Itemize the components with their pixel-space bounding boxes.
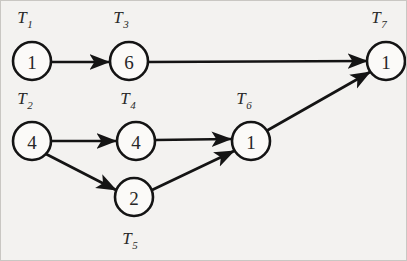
node-t5[interactable]: 2T5 [115,178,153,251]
node-t1[interactable]: 1T1 [13,8,51,80]
node-t4[interactable]: 4T4 [117,89,155,160]
edge-t2-to-t5 [46,154,116,190]
nodes-layer: 1T14T26T34T42T51T61T7 [13,8,405,251]
edge-t4-to-t6 [155,139,231,140]
node-label-sub-t7: 7 [381,18,387,30]
node-label-t7: T7 [371,8,387,30]
node-value-t2: 4 [27,132,37,153]
node-label-t1: T1 [17,8,32,30]
node-value-t4: 4 [131,132,141,153]
node-value-t3: 6 [124,52,134,73]
node-label-t3: T3 [113,8,129,30]
node-t2[interactable]: 4T2 [13,89,51,160]
node-value-t5: 2 [129,188,139,209]
node-label-sub-t5: 5 [132,239,138,251]
node-label-t6: T6 [236,89,252,111]
node-label-sub-t1: 1 [27,18,33,30]
edge-t3-to-t7 [148,61,367,62]
node-label-sub-t6: 6 [246,99,252,111]
node-t7[interactable]: 1T7 [367,8,405,80]
node-label-t5: T5 [122,229,138,251]
node-label-sub-t3: 3 [122,18,129,30]
node-label-t4: T4 [120,89,136,111]
diagram-canvas: 1T14T26T34T42T51T61T7 [0,0,407,261]
node-label-sub-t2: 2 [27,99,33,111]
node-value-t6: 1 [246,132,256,153]
node-t3[interactable]: 6T3 [110,8,148,80]
node-value-t7: 1 [381,52,391,73]
node-t6[interactable]: 1T6 [232,89,270,160]
edges-layer [46,61,370,190]
node-value-t1: 1 [27,52,37,73]
node-label-sub-t4: 4 [130,99,136,111]
edge-t6-to-t7 [268,72,370,130]
node-label-t2: T2 [17,89,33,111]
edge-t5-to-t6 [152,151,234,190]
task-graph: 1T14T26T34T42T51T61T7 [1,1,407,261]
